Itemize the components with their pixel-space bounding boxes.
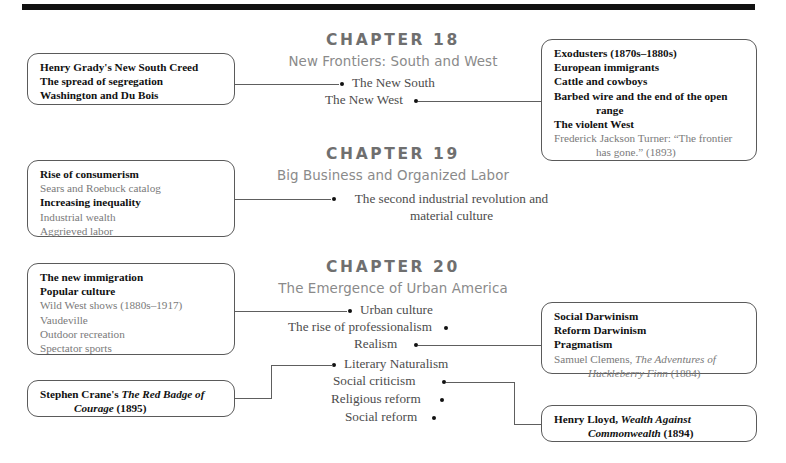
box-line: Spectator sports (40, 341, 224, 355)
topic-realism: Realism (354, 336, 397, 352)
box-line: Sears and Roebuck catalog (40, 181, 224, 195)
topic-literary-naturalism: Literary Naturalism (344, 356, 448, 372)
connector-social-criticism-vertical (514, 382, 515, 424)
box-new-immigration[interactable]: The new immigration Popular culture Wild… (27, 263, 235, 355)
box-line: Henry Grady's New South Creed (40, 60, 224, 74)
box-line: The violent West (554, 117, 746, 131)
box-line: Vaudeville (40, 313, 224, 327)
connector-immigration-to-urban-culture (235, 311, 347, 312)
box-line-title: Huckleberry Finn (588, 367, 668, 379)
topic-urban-culture: Urban culture (360, 302, 433, 318)
box-henry-grady[interactable]: Henry Grady's New South Creed The spread… (27, 53, 235, 105)
box-line-title: Commonwealth (588, 427, 661, 439)
box-line: Commonwealth (1894) (554, 426, 746, 440)
box-line: Frederick Jackson Turner: “The frontier (554, 131, 746, 145)
box-line: Barbed wire and the end of the open (554, 89, 746, 103)
box-line: Courage (1895) (40, 401, 224, 415)
box-line: Henry Lloyd, Wealth Against (554, 412, 746, 426)
box-line: Washington and Du Bois (40, 88, 224, 102)
box-line: Wild West shows (1880s–1917) (40, 298, 224, 312)
topic-social-criticism: Social criticism (333, 373, 415, 389)
topic-rise-of-professionalism: The rise of professionalism (288, 319, 432, 335)
box-henry-lloyd[interactable]: Henry Lloyd, Wealth Against Commonwealth… (541, 405, 757, 442)
bullet-urban-culture (348, 309, 352, 313)
chapter-18-number: CHAPTER 18 (243, 31, 543, 49)
connector-consumerism-to-ch19-topic (235, 199, 331, 200)
box-line: Outdoor recreation (40, 327, 224, 341)
box-line: Pragmatism (554, 337, 746, 351)
bullet-the-new-south (340, 82, 344, 86)
connector-new-west-to-exodusters (418, 101, 542, 102)
chapter-19-title: Big Business and Organized Labor (243, 168, 543, 183)
connector-crane-horizontal-bottom (235, 398, 272, 399)
box-line: Huckleberry Finn (1884) (554, 366, 746, 380)
connector-crane-horizontal-top (271, 365, 333, 366)
box-line: Stephen Crane's The Red Badge of (40, 387, 224, 401)
bullet-second-industrial-revolution (332, 197, 336, 201)
box-stephen-crane[interactable]: Stephen Crane's The Red Badge of Courage… (27, 380, 235, 417)
box-line: Popular culture (40, 284, 224, 298)
chapter-19-number: CHAPTER 19 (243, 145, 543, 163)
box-line: Cattle and cowboys (554, 74, 746, 88)
bullet-social-reform (432, 416, 436, 420)
connector-realism-to-darwinism (418, 345, 542, 346)
top-divider-rule (22, 4, 755, 10)
box-line: Social Darwinism (554, 309, 746, 323)
connector-crane-vertical (271, 365, 272, 398)
box-line-title: The Red Badge of (121, 388, 204, 400)
box-line-text: (1884) (668, 367, 701, 379)
chapter-18-title: New Frontiers: South and West (243, 54, 543, 69)
topic-the-new-south: The New South (352, 75, 435, 91)
box-line: Industrial wealth (40, 210, 224, 224)
box-line-text: Samuel Clemens, (554, 353, 635, 365)
diagram-canvas: CHAPTER 18 New Frontiers: South and West… (0, 0, 786, 463)
box-line: Rise of consumerism (40, 167, 224, 181)
box-line: The new immigration (40, 270, 224, 284)
connector-social-criticism-to-lloyd (514, 424, 542, 425)
topic-social-reform: Social reform (345, 409, 417, 425)
box-line: European immigrants (554, 60, 746, 74)
chapter-20-title: The Emergence of Urban America (243, 281, 543, 296)
box-line-title: The Adventures of (635, 353, 716, 365)
bullet-religious-reform (440, 398, 444, 402)
box-line: range (554, 103, 746, 117)
box-line: Aggrieved labor (40, 224, 224, 238)
topic-the-new-west: The New West (325, 92, 403, 108)
topic-second-industrial-revolution: The second industrial revolution and mat… (344, 190, 559, 224)
connector-grady-to-new-south (235, 84, 339, 85)
box-line-text: Stephen Crane's (40, 388, 121, 400)
connector-social-criticism-horizontal (446, 382, 514, 383)
box-line: Exodusters (1870s–1880s) (554, 46, 746, 60)
box-exodusters[interactable]: Exodusters (1870s–1880s) European immigr… (541, 39, 757, 161)
box-line-text: (1895) (114, 402, 147, 414)
box-line: Reform Darwinism (554, 323, 746, 337)
box-line: The spread of segregation (40, 74, 224, 88)
box-social-darwinism[interactable]: Social Darwinism Reform Darwinism Pragma… (541, 302, 757, 374)
chapter-20-number: CHAPTER 20 (243, 258, 543, 276)
bullet-rise-of-professionalism (444, 326, 448, 330)
box-line-text: Henry Lloyd, (554, 413, 621, 425)
box-line-title: Wealth Against (621, 413, 691, 425)
box-line: has gone.” (1893) (554, 145, 746, 159)
box-rise-of-consumerism[interactable]: Rise of consumerism Sears and Roebuck ca… (27, 160, 235, 237)
box-line: Increasing inequality (40, 195, 224, 209)
box-line-title: Courage (74, 402, 114, 414)
topic-religious-reform: Religious reform (331, 391, 421, 407)
box-line: Samuel Clemens, The Adventures of (554, 352, 746, 366)
box-line-text: (1894) (661, 427, 694, 439)
